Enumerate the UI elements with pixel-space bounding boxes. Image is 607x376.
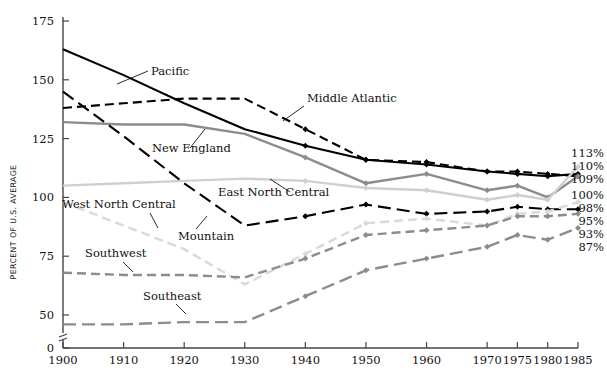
data-point <box>302 178 308 184</box>
x-tick-label: 1980 <box>533 353 562 367</box>
end-label-l95: 95% <box>578 214 604 228</box>
leader-line-southeast <box>176 304 186 314</box>
y-tick-label: 150 <box>32 73 54 87</box>
data-point <box>424 216 430 222</box>
axis-break-marker <box>59 334 67 341</box>
data-point <box>363 220 369 226</box>
series-line-west-north-central <box>63 202 578 284</box>
end-label-l100: 100% <box>571 188 604 202</box>
leader-line-middle_atlantic <box>283 106 304 121</box>
data-point <box>484 169 490 175</box>
x-tick-label: 1930 <box>230 353 259 367</box>
leader-line-mountain <box>196 216 207 229</box>
regional-income-line-chart: 0507510012515017519001910192019301940195… <box>0 0 607 376</box>
data-point <box>424 171 430 177</box>
data-point <box>514 183 520 189</box>
data-point <box>363 185 369 191</box>
x-tick-label: 1910 <box>109 353 138 367</box>
chart-container: 0507510012515017519001910192019301940195… <box>0 0 607 376</box>
leader-line-southwest <box>123 262 133 272</box>
x-tick-label: 1975 <box>503 353 532 367</box>
data-point <box>363 232 369 238</box>
end-label-l109: 109% <box>571 172 604 186</box>
data-point <box>363 201 369 207</box>
data-point <box>514 192 520 198</box>
leader-line-west_north_central <box>150 213 158 228</box>
chart-annotations: 113%110%109%100%98%95%93%87%PacificMiddl… <box>62 64 604 314</box>
x-tick-label: 1950 <box>351 353 380 367</box>
y-tick-label: 125 <box>32 132 54 146</box>
data-point <box>484 209 490 215</box>
end-label-l113: 113% <box>571 146 604 160</box>
y-tick-label: 75 <box>39 249 54 263</box>
x-tick-label: 1985 <box>563 353 592 367</box>
end-label-l93: 93% <box>578 227 604 241</box>
data-point <box>302 213 308 219</box>
x-tick-label: 1900 <box>48 353 77 367</box>
data-point <box>424 227 430 233</box>
series-label-new_england: New England <box>152 141 231 155</box>
data-point <box>302 143 308 149</box>
x-tick-label: 1970 <box>472 353 501 367</box>
y-tick-label: 175 <box>32 14 54 28</box>
series-label-east_north_central: East North Central <box>218 185 330 199</box>
data-point <box>424 187 430 193</box>
x-tick-label: 1920 <box>170 353 199 367</box>
leader-line-pacific <box>117 71 148 84</box>
y-axis-title: PERCENT OF U.S. AVERAGE <box>9 165 18 280</box>
data-point <box>302 256 308 262</box>
x-tick-label: 1960 <box>412 353 441 367</box>
end-label-l98: 98% <box>578 201 604 215</box>
data-point <box>484 187 490 193</box>
x-tick-label: 1940 <box>291 353 320 367</box>
end-label-l87: 87% <box>578 240 604 254</box>
series-label-mountain: Mountain <box>178 229 235 243</box>
series-label-southwest: Southwest <box>85 246 147 260</box>
data-point <box>424 256 430 262</box>
end-label-l110: 110% <box>571 159 604 173</box>
series-label-middle_atlantic: Middle Atlantic <box>307 91 397 105</box>
series-label-southeast: Southeast <box>143 289 202 303</box>
data-point <box>484 197 490 203</box>
data-point <box>514 232 520 238</box>
data-point <box>545 213 551 219</box>
data-point <box>514 204 520 210</box>
series-label-west_north_central: West North Central <box>62 197 176 211</box>
y-tick-label: 50 <box>39 308 54 322</box>
series-line-pacific <box>63 49 578 176</box>
series-label-pacific: Pacific <box>151 64 189 78</box>
data-point <box>484 223 490 229</box>
y-tick-label: 100 <box>32 190 54 204</box>
